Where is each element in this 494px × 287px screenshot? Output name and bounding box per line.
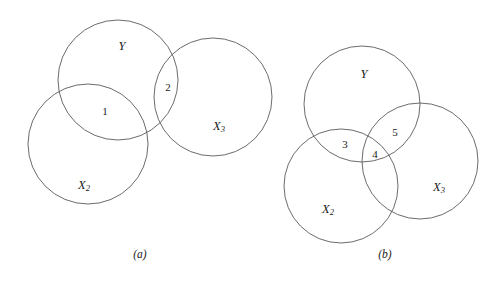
region-number-2-panel-a: 2 <box>165 81 171 93</box>
region-number-5-panel-b: 5 <box>392 126 398 138</box>
set-circle-x2-panel-b[interactable] <box>284 129 398 243</box>
set-label-subscript-x2-panel-b: 2 <box>330 207 335 217</box>
venn-panel-a: YX2X312(a) <box>28 20 272 261</box>
region-number-1-panel-a: 1 <box>102 105 108 117</box>
set-label-subscript-x3-panel-a: 3 <box>220 124 225 134</box>
venn-panel-b: YX2X3345(b) <box>284 46 478 261</box>
set-circle-x3-panel-a[interactable] <box>154 38 272 156</box>
region-number-4-panel-b: 4 <box>372 148 378 160</box>
set-label-x3-panel-a: X3 <box>212 119 225 134</box>
panel-caption-a: (a) <box>133 248 147 261</box>
set-label-y-panel-a: Y <box>119 39 128 53</box>
set-label-y-panel-b: Y <box>361 67 370 81</box>
panel-caption-b: (b) <box>378 248 392 261</box>
set-circle-x3-panel-b[interactable] <box>362 103 478 219</box>
set-label-x2-panel-a: X2 <box>77 178 91 193</box>
set-label-subscript-x3-panel-b: 3 <box>440 185 445 195</box>
venn-diagram-canvas: YX2X312(a)YX2X3345(b) <box>0 0 494 287</box>
set-label-x3-panel-b: X3 <box>432 180 445 195</box>
venn-figure: YX2X312(a)YX2X3345(b) <box>0 0 494 287</box>
set-label-subscript-x2-panel-a: 2 <box>86 183 91 193</box>
region-number-3-panel-b: 3 <box>342 138 348 150</box>
set-circle-y-panel-b[interactable] <box>304 46 420 162</box>
set-label-x2-panel-b: X2 <box>321 202 335 217</box>
